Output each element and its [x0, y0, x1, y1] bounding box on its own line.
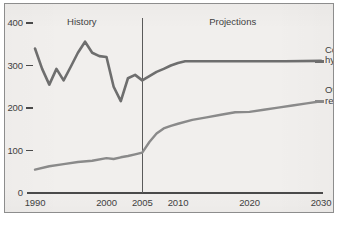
y-tick-label-200: 200 — [5, 102, 23, 113]
annotation-history: History — [67, 16, 97, 27]
x-tick-label-2000: 2000 — [92, 197, 122, 208]
legend-swatch-other-renewables — [315, 100, 324, 103]
y-tick-marks — [26, 23, 33, 151]
x-tick-label-2005: 2005 — [127, 197, 157, 208]
y-tick-label-400: 400 — [5, 17, 23, 28]
series-line-other-renewables — [35, 101, 321, 169]
chart-plate: 4003002001000 199020002005201020202030 H… — [4, 3, 334, 213]
x-tick-label-2030: 2030 — [306, 197, 334, 208]
chart-figure: 4003002001000 199020002005201020202030 H… — [0, 0, 348, 226]
legend-label-hydro-line1: Conventional — [325, 44, 334, 55]
y-tick-label-100: 100 — [5, 145, 23, 156]
x-tick-label-2020: 2020 — [235, 197, 265, 208]
annotation-projections: Projections — [209, 16, 256, 27]
legend-label-hydro-line2: hydropower — [325, 54, 334, 65]
legend-label-renew-line2: renewables — [325, 95, 334, 106]
series-line-conventional-hydropower — [35, 42, 321, 101]
chart-plot-area — [5, 4, 333, 212]
legend-label-conventional-hydropower: Conventional hydropower — [325, 45, 334, 66]
x-tick-label-1990: 1990 — [20, 197, 50, 208]
y-tick-label-300: 300 — [5, 60, 23, 71]
legend-label-other-renewables: Other renewables — [325, 85, 334, 106]
legend-swatch-conventional-hydropower — [315, 60, 324, 63]
legend-label-renew-line1: Other — [325, 84, 334, 95]
x-tick-label-2010: 2010 — [163, 197, 193, 208]
